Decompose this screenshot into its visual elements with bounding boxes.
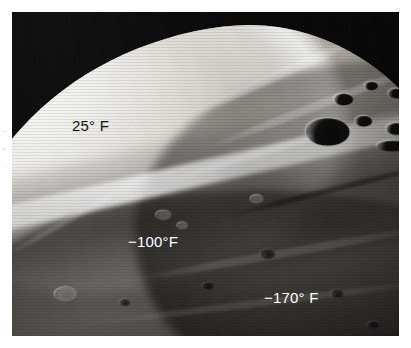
moon-body bbox=[12, 12, 399, 336]
scan-artifact bbox=[2, 148, 5, 150]
temperature-label-terminator: −100°F bbox=[128, 234, 178, 250]
surface-crater bbox=[364, 81, 377, 89]
surface-crater bbox=[389, 89, 399, 99]
surface-crater bbox=[355, 116, 372, 126]
moon-body-shading bbox=[12, 12, 399, 336]
scan-artifact bbox=[5, 166, 7, 167]
surface-crater bbox=[251, 195, 263, 203]
surface-crater bbox=[202, 282, 214, 289]
surface-crater bbox=[368, 322, 379, 329]
scan-artifact bbox=[3, 131, 7, 132]
surface-crater bbox=[55, 287, 77, 301]
scan-artifact bbox=[396, 8, 401, 9]
surface-crater bbox=[260, 250, 275, 259]
phobos-surface-photograph: 25° F −100°F −170° F bbox=[12, 12, 399, 336]
surface-crater bbox=[331, 290, 344, 298]
temperature-label-sunlit-limb: 25° F bbox=[72, 118, 109, 134]
surface-crater bbox=[156, 210, 172, 219]
surface-crater bbox=[306, 119, 349, 146]
page-canvas: 25° F −100°F −170° F bbox=[0, 0, 411, 348]
temperature-label-night-side: −170° F bbox=[264, 290, 319, 306]
